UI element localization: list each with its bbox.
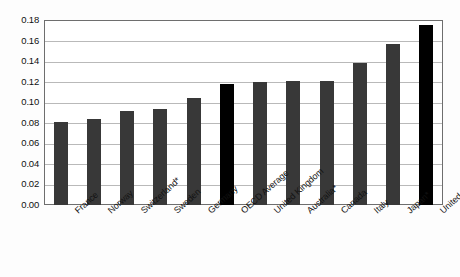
x-axis-tick-label: Switzerland* — [139, 208, 146, 215]
y-axis-tick-label: 0.00 — [0, 200, 39, 210]
bar[interactable] — [386, 44, 400, 205]
bar[interactable] — [353, 63, 367, 205]
bar[interactable] — [54, 122, 68, 205]
y-axis-tick-label: 0.14 — [0, 56, 39, 66]
bars-layer — [44, 20, 443, 205]
x-axis-tick-label: Germany — [206, 208, 213, 215]
y-axis-tick-labels: 0.180.160.140.120.100.080.060.040.020.00 — [0, 0, 40, 277]
y-axis-tick-label: 0.18 — [0, 15, 39, 25]
x-axis-tick-label: Canada — [339, 208, 346, 215]
x-axis-tick-label: OECD Average — [239, 208, 246, 215]
x-axis-tick-label: Norway — [106, 208, 113, 215]
y-axis-tick-label: 0.08 — [0, 118, 39, 128]
x-axis-tick-labels: FranceNorwaySwitzerland*SwedenGermanyOEC… — [44, 206, 460, 277]
bar[interactable] — [419, 25, 433, 205]
x-axis-tick-label: France — [73, 208, 80, 215]
y-axis-tick-label: 0.12 — [0, 77, 39, 87]
x-axis-tick-label: United States — [438, 208, 445, 215]
y-axis-tick-label: 0.16 — [0, 36, 39, 46]
x-axis-tick-label: Australia* — [305, 208, 312, 215]
bar-chart: 0.180.160.140.120.100.080.060.040.020.00… — [0, 0, 460, 277]
x-axis-tick-label: United Kingdom — [272, 208, 279, 215]
y-axis-tick-label: 0.02 — [0, 179, 39, 189]
y-axis-tick-label: 0.06 — [0, 138, 39, 148]
x-axis-tick-label: Italy — [372, 208, 379, 215]
y-axis-tick-label: 0.04 — [0, 159, 39, 169]
x-axis-tick-label: Japan* — [405, 208, 412, 215]
y-axis-tick-label: 0.10 — [0, 97, 39, 107]
x-axis-tick-label: Sweden — [172, 208, 179, 215]
